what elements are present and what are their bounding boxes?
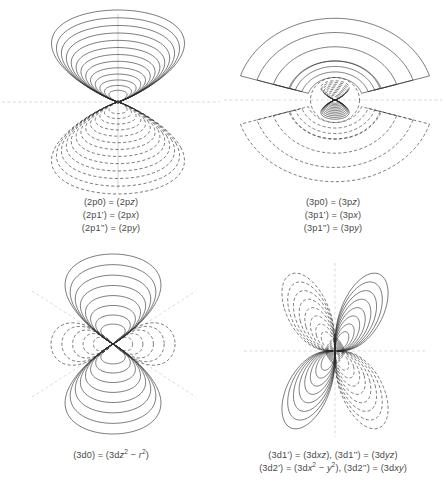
contour-line	[241, 18, 430, 88]
plot-3d0	[0, 249, 222, 444]
caption-line: (3p1’) = (3px)	[222, 209, 444, 222]
caption-line: (3d0) = (3dz2 − r2)	[0, 449, 222, 462]
caption-3d0: (3d0) = (3dz2 − r2)	[0, 449, 222, 462]
contour-line	[113, 334, 143, 355]
contour-line	[241, 112, 430, 182]
contour-line	[324, 100, 346, 114]
panel-3p-orbital: (3p0) = (3pz) (3p1’) = (3px) (3p1’’) = (…	[222, 0, 444, 249]
contour-line	[324, 86, 346, 100]
contour-line	[83, 334, 113, 355]
contour-line	[273, 47, 396, 92]
contour-line	[299, 299, 335, 351]
contour-line	[273, 108, 396, 153]
contour-svg-3d0	[0, 249, 222, 444]
contour-line	[93, 337, 113, 351]
contour-line	[335, 351, 371, 403]
caption-line: (3p0) = (3pz)	[222, 196, 444, 209]
contour-line	[335, 351, 354, 378]
contour-line	[335, 299, 371, 351]
contour-line	[101, 344, 125, 364]
caption-line: (2p1’’) = (2py)	[0, 222, 222, 235]
contour-line	[332, 97, 338, 100]
contour-svg-3d1	[222, 249, 444, 444]
contour-line	[329, 100, 342, 108]
contour-line	[321, 100, 349, 119]
contour-line	[113, 326, 164, 361]
contour-line	[329, 92, 342, 100]
contour-line	[299, 351, 335, 403]
contour-svg-3p	[222, 0, 444, 195]
contour-line	[65, 344, 161, 434]
contour-line	[86, 344, 141, 392]
contour-line	[70, 344, 156, 423]
contour-line	[62, 326, 113, 361]
caption-line: (3p1’’) = (3py)	[222, 222, 444, 235]
nucleus-marker	[116, 100, 120, 103]
caption-line: (2p0) = (2pz)	[0, 196, 222, 209]
contour-line	[101, 324, 125, 344]
contour-line	[91, 305, 136, 344]
contour-line	[322, 100, 348, 117]
caption-3p: (3p0) = (3pz) (3p1’) = (3px) (3p1’’) = (…	[222, 196, 444, 235]
panel-2p-orbital: (2p0) = (2pz) (2p1’) = (2px) (2p1’’) = (…	[0, 0, 222, 249]
panel-3d0-orbital: (3d0) = (3dz2 − r2)	[0, 249, 222, 498]
contour-line	[113, 337, 133, 351]
contour-line	[113, 323, 175, 365]
contour-line	[332, 100, 338, 103]
contour-line	[113, 330, 153, 358]
contour-line	[86, 296, 141, 344]
contour-line	[73, 330, 113, 358]
caption-line: (2p1’) = (2px)	[0, 209, 222, 222]
contour-line	[321, 81, 349, 100]
contour-line	[91, 344, 136, 383]
panel-3d1-orbital: (3d1’) = (3dxz), (3d1’’) = (3dyz) (3d2’)…	[222, 249, 444, 498]
contour-line	[322, 83, 348, 100]
contour-line	[51, 323, 113, 365]
plot-3d1	[222, 249, 444, 444]
plot-2p	[0, 0, 222, 195]
caption-line: (3d2’) = (3dx2 − y2), (3d2’’) = (3dxy)	[222, 462, 444, 475]
orbital-figure: (2p0) = (2pz) (2p1’) = (2px) (2p1’’) = (…	[0, 0, 444, 498]
contour-line	[70, 265, 156, 344]
contour-line	[65, 254, 161, 344]
lobe-contours-3d0	[51, 254, 175, 434]
caption-2p: (2p0) = (2pz) (2p1’) = (2px) (2p1’’) = (…	[0, 196, 222, 235]
contour-svg-2p	[0, 0, 222, 195]
contour-line	[316, 324, 335, 351]
plot-3p	[222, 0, 444, 195]
caption-3d1: (3d1’) = (3dxz), (3d1’’) = (3dyz) (3d2’)…	[222, 449, 444, 475]
